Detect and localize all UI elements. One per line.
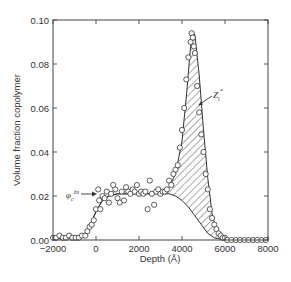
- data-point: [192, 50, 197, 55]
- fit-line: [53, 31, 268, 240]
- data-point: [106, 200, 111, 205]
- zi-annotation: Zi*: [198, 88, 223, 106]
- data-point: [96, 187, 101, 192]
- data-point: [143, 189, 148, 194]
- svg-text:φcbs: φcbs: [66, 189, 80, 202]
- data-point: [201, 149, 206, 154]
- data-point: [121, 198, 126, 203]
- data-points: [50, 31, 268, 243]
- data-point: [102, 196, 107, 201]
- plot-frame: [53, 20, 268, 240]
- y-tick-label: 0.02: [31, 191, 50, 202]
- y-tick-label: 0.08: [31, 59, 50, 70]
- data-point: [113, 187, 118, 192]
- data-point: [152, 202, 157, 207]
- x-axis-label: Depth (Å): [140, 253, 181, 264]
- svg-text:Zi*: Zi*: [213, 88, 223, 102]
- data-point: [182, 105, 187, 110]
- data-point: [186, 55, 191, 60]
- x-tick-label: 6000: [214, 243, 235, 254]
- data-point: [134, 182, 139, 187]
- data-point: [190, 35, 195, 40]
- fit-lines: [53, 31, 268, 240]
- surface-excess-hatched-area: [161, 31, 230, 240]
- x-axis-ticks: −200002000400060008000: [40, 20, 279, 254]
- y-tick-label: 0.04: [31, 147, 50, 158]
- data-point: [210, 215, 215, 220]
- data-point: [191, 44, 196, 49]
- data-point: [205, 187, 210, 192]
- data-point: [91, 218, 96, 223]
- data-point: [177, 145, 182, 150]
- y-tick-label: 0.00: [31, 235, 50, 246]
- hatch-fill: [161, 31, 230, 240]
- arrow-icon: [92, 192, 97, 197]
- data-point: [197, 110, 202, 115]
- y-tick-label: 0.06: [31, 103, 50, 114]
- data-point: [145, 207, 150, 212]
- x-tick-label: 0: [93, 243, 98, 254]
- depth-profile-chart: −200002000400060008000 0.000.020.040.060…: [0, 0, 291, 282]
- data-point: [195, 83, 200, 88]
- data-point: [175, 163, 180, 168]
- phi-bulk-annotation: φcbs: [66, 189, 97, 202]
- data-point: [164, 187, 169, 192]
- data-point: [109, 191, 114, 196]
- data-point: [203, 171, 208, 176]
- data-point: [169, 182, 174, 187]
- data-point: [119, 189, 124, 194]
- data-point: [199, 132, 204, 137]
- data-point: [98, 207, 103, 212]
- y-tick-label: 0.10: [31, 15, 50, 26]
- data-point: [147, 178, 152, 183]
- x-tick-label: 8000: [257, 243, 278, 254]
- data-point: [184, 77, 189, 82]
- y-axis-label: Volume fraction copolymer: [11, 74, 22, 186]
- data-point: [207, 207, 212, 212]
- data-point: [179, 127, 184, 132]
